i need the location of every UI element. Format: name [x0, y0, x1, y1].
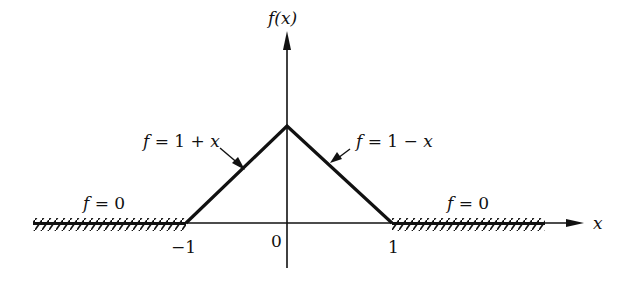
right-slope-leader	[330, 149, 350, 163]
right-zero-label: f = 0	[445, 193, 489, 213]
y-axis-label: f(x)	[266, 8, 297, 28]
y-axis-arrow-icon	[283, 31, 291, 50]
tent-function-diagram: f(x) x −1 0 1 f = 0 f = 1 + x f = 1 − x …	[0, 0, 632, 287]
y-axis	[283, 31, 291, 268]
right-slope-label: f = 1 − x	[354, 131, 433, 151]
x-axis-label: x	[593, 213, 603, 233]
tick-label-one: 1	[388, 237, 399, 257]
left-slope-leader	[220, 148, 245, 170]
x-axis-arrow-icon	[566, 219, 584, 227]
left-zero-label: f = 0	[81, 193, 125, 213]
left-slope-label: f = 1 + x	[141, 131, 220, 151]
tick-label-zero: 0	[271, 231, 282, 251]
leader-arrow-icon	[330, 152, 342, 163]
tick-label-neg-one: −1	[171, 237, 196, 257]
